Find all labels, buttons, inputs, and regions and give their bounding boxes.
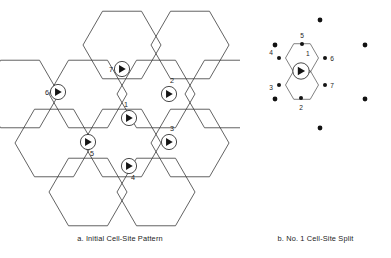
split-outer-dot-top	[318, 18, 323, 23]
split-outer-dot-upper-left	[273, 43, 278, 48]
split-vertex-label-7: 7	[330, 82, 334, 89]
split-outer-dot-lower-right	[363, 97, 368, 102]
split-vertex-dot-4	[277, 56, 281, 60]
cell-site-4-marker	[121, 158, 136, 173]
hexagon-cell-hex-far-right-upper	[185, 60, 240, 128]
cell-site-7-marker	[114, 61, 129, 76]
panel-initial-cell-site-pattern: 1234567 a. Initial Cell-Site Pattern	[0, 0, 240, 258]
hexagon-cell-hex-top-right	[151, 11, 229, 79]
cell-site-3-marker	[161, 134, 176, 149]
split-outer-dot-upper-right	[363, 43, 368, 48]
cell-site-label-3: 3	[170, 124, 174, 133]
cell-site-1-marker	[121, 110, 136, 125]
hexagon-cell-hex-lower-left	[49, 158, 127, 226]
cell-site-label-2: 2	[170, 76, 174, 85]
split-vertex-dot-2	[299, 96, 303, 100]
caption-panel-a: a. Initial Cell-Site Pattern	[0, 234, 240, 243]
figure-root: 1234567 a. Initial Cell-Site Pattern 123…	[0, 0, 391, 258]
split-outer-dot-lower-left	[273, 97, 278, 102]
caption-panel-b: b. No. 1 Cell-Site Split	[240, 234, 391, 243]
split-vertex-label-2: 2	[299, 104, 303, 111]
split-outer-dot-bottom	[318, 126, 323, 131]
cell-site-6-marker	[50, 84, 65, 99]
split-vertex-dot-6	[323, 56, 327, 60]
split-center-site-marker	[293, 63, 309, 79]
cell-site-label-7: 7	[109, 65, 113, 74]
split-vertex-label-4: 4	[269, 49, 273, 56]
split-vertex-dot-5	[300, 42, 304, 46]
split-vertex-dot-7	[323, 83, 327, 87]
cell-site-label-1: 1	[124, 100, 128, 109]
cell-site-label-5: 5	[90, 149, 94, 158]
split-vertex-label-1: 1	[306, 50, 310, 57]
split-vertex-label-3: 3	[269, 84, 273, 91]
panel-cell-site-split: 1234567 b. No. 1 Cell-Site Split	[240, 0, 391, 258]
cell-site-split-svg: 1234567	[240, 0, 391, 230]
cell-site-label-6: 6	[45, 88, 49, 97]
split-vertex-label-6: 6	[330, 55, 334, 62]
cell-site-5-marker	[80, 134, 95, 149]
split-vertex-dot-3	[277, 83, 281, 87]
cell-site-label-4: 4	[131, 173, 135, 182]
initial-cell-site-pattern-svg: 1234567	[0, 0, 240, 230]
cell-site-2-marker	[161, 86, 176, 101]
split-vertex-label-5: 5	[300, 32, 304, 39]
